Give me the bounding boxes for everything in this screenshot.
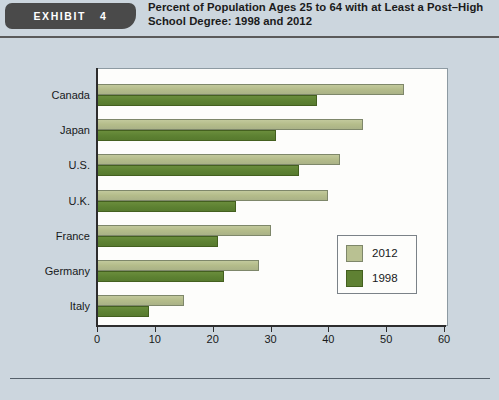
bar-group [97,119,444,141]
bar-group [97,154,444,176]
category-label-us: U.S. [0,159,90,171]
bar-uk-2012 [97,190,328,201]
bar-france-2012 [97,225,271,236]
x-tick-mark-0 [97,327,98,332]
category-label-italy: Italy [0,300,90,312]
legend-entry-1998: 1998 [346,269,398,287]
bar-canada-1998 [97,95,317,106]
x-tick-label-10: 10 [140,333,170,345]
bar-japan-2012 [97,119,363,130]
bar-us-2012 [97,154,340,165]
category-label-uk: U.K. [0,195,90,207]
x-tick-mark-10 [155,327,156,332]
bar-group [97,190,444,212]
bar-uk-1998 [97,201,236,212]
exhibit-tag: EXHIBIT 4 [5,3,136,29]
exhibit-tag-word: EXHIBIT [33,10,86,22]
bar-group [97,84,444,106]
x-tick-mark-40 [328,327,329,332]
legend-label-2012: 2012 [372,247,398,259]
category-label-france: France [0,230,90,242]
x-tick-mark-20 [213,327,214,332]
legend-swatch-1998 [346,270,363,287]
x-tick-label-40: 40 [313,333,343,345]
bar-france-1998 [97,236,218,247]
legend-label-1998: 1998 [372,272,398,284]
bar-italy-1998 [97,306,149,317]
exhibit-title: Percent of Population Ages 25 to 64 with… [148,1,496,28]
x-tick-label-60: 60 [429,333,459,345]
y-axis-line [96,68,98,326]
x-tick-label-20: 20 [198,333,228,345]
legend-swatch-2012 [346,245,363,262]
category-axis-labels: CanadaJapanU.S.U.K.FranceGermanyItaly [0,39,90,361]
x-tick-label-50: 50 [371,333,401,345]
legend-entry-2012: 2012 [346,244,398,262]
bar-us-1998 [97,165,299,176]
bar-group [97,295,444,317]
x-tick-label-0: 0 [82,333,112,345]
chart-legend: 2012 1998 [337,235,417,294]
header-divider [0,36,499,38]
bar-germany-2012 [97,260,259,271]
bar-japan-1998 [97,130,276,141]
bar-canada-2012 [97,84,404,95]
x-tick-mark-60 [444,327,445,332]
bar-germany-1998 [97,271,224,282]
category-label-japan: Japan [0,124,90,136]
x-tick-mark-30 [271,327,272,332]
exhibit-tag-number: 4 [100,10,107,22]
category-label-canada: Canada [0,89,90,101]
footer-divider [10,378,490,379]
exhibit-header: EXHIBIT 4 Percent of Population Ages 25 … [0,0,499,38]
bar-italy-2012 [97,295,184,306]
chart-figure: CanadaJapanU.S.U.K.FranceGermanyItaly 01… [0,39,499,361]
x-tick-mark-50 [386,327,387,332]
x-tick-label-30: 30 [256,333,286,345]
category-label-germany: Germany [0,265,90,277]
